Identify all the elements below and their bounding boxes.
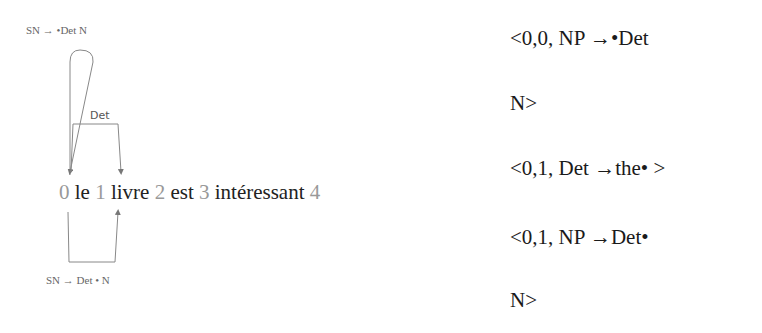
chart-entry-2: <0,1, Det →the• > bbox=[510, 156, 665, 181]
word-livre: livre bbox=[111, 180, 149, 204]
bottom-arc bbox=[68, 212, 118, 262]
word-interessant: intéressant bbox=[215, 180, 305, 204]
chart-entry-3-line1: <0,1, NP →Det• bbox=[510, 225, 649, 250]
position-4: 4 bbox=[310, 180, 321, 204]
edge-label-det: Det bbox=[90, 109, 110, 122]
chart-entry-3-line2: N> bbox=[510, 288, 537, 313]
bottom-rule-label: SN → Det • N bbox=[46, 274, 110, 286]
chart-entry-1-line1: <0,0, NP →•Det bbox=[510, 26, 649, 51]
position-2: 2 bbox=[155, 180, 166, 204]
word-est: est bbox=[170, 180, 193, 204]
top-rule-label: SN → •Det N bbox=[26, 24, 87, 36]
sentence: 0 le 1 livre 2 est 3 intéressant 4 bbox=[59, 180, 320, 205]
chart-entry-1-line2: N> bbox=[510, 91, 537, 116]
position-3: 3 bbox=[199, 180, 210, 204]
position-1: 1 bbox=[95, 180, 106, 204]
word-le: le bbox=[75, 180, 90, 204]
position-0: 0 bbox=[59, 180, 70, 204]
